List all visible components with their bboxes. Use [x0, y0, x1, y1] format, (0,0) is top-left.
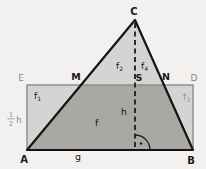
half-h-numerator: 1 — [9, 111, 13, 119]
label-base-g: g — [75, 151, 81, 162]
label-point-N: N — [162, 71, 170, 82]
label-point-E: E — [18, 73, 24, 83]
half-h-letter: h — [16, 115, 21, 125]
label-height-h: h — [121, 106, 127, 117]
label-point-A: A — [20, 154, 28, 165]
geometry-figure: C E M S N D A B f1 f2 f4 f3 f h g 1 2 h — [0, 0, 206, 169]
triangle-rectangle-diagram: C E M S N D A B f1 f2 f4 f3 f h g 1 2 h — [0, 0, 206, 169]
right-angle-dot — [140, 142, 142, 144]
label-point-B: B — [187, 155, 195, 166]
half-h-denominator: 2 — [9, 120, 13, 128]
label-point-S: S — [136, 72, 143, 83]
label-point-M: M — [71, 71, 80, 82]
label-point-C: C — [130, 6, 137, 17]
label-point-D: D — [191, 73, 198, 83]
